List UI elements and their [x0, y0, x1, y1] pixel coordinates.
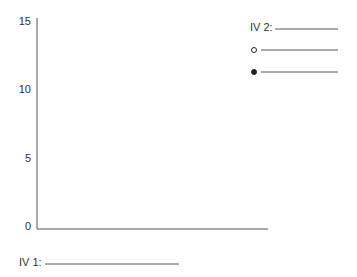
y-tick-label: 0 [25, 220, 31, 232]
chart: 051015 IV 1: IV 2: [0, 0, 357, 277]
y-tick-label: 5 [25, 152, 31, 164]
legend-title: IV 2: [250, 21, 273, 33]
y-tick-label: 10 [19, 83, 31, 95]
filled-circle-marker-icon [252, 70, 257, 75]
legend: IV 2: [250, 21, 338, 75]
y-tick-label: 15 [19, 15, 31, 27]
x-axis-label: IV 1: [19, 256, 42, 268]
open-circle-marker-icon [252, 48, 257, 53]
